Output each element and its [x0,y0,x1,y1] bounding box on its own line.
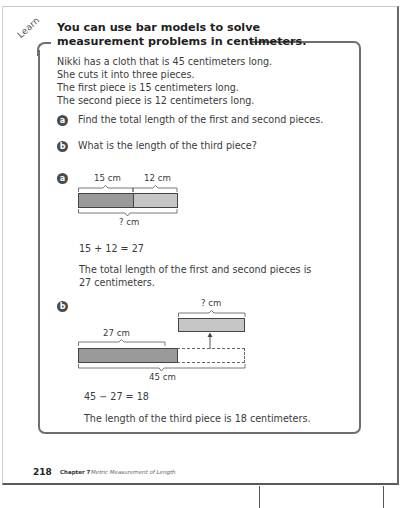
equation-a: 15 + 12 = 27 [79,243,144,256]
badge-a-icon: a [57,115,68,126]
chapter-label: Chapter 7 [60,469,90,475]
arrow-up-icon [206,332,214,349]
question-a: Find the total length of the first and s… [78,114,323,127]
second-piece-bar [133,193,178,208]
learn-box-curl [37,42,51,56]
bottom-brace-icon [78,364,246,372]
first-piece-label: 15 cm [94,173,121,183]
problem-line: Nikki has a cloth that is 45 centimeters… [57,56,272,69]
known-length-bar [78,348,178,363]
top-brace-icon [78,339,168,347]
badge-b-icon: b [57,141,68,152]
unknown-label: ? cm [201,298,221,308]
question-b: What is the length of the third piece? [78,140,257,153]
problem-line: The second piece is 12 centimeters long. [57,95,254,108]
bottom-brace-icon [78,209,178,217]
badge-a-icon: a [57,173,68,184]
second-piece-label: 12 cm [144,173,171,183]
crop-mark [383,486,384,508]
total-label: ? cm [119,217,139,227]
crop-mark [259,486,260,508]
known-label: 27 cm [103,328,130,338]
answer-a-line: The total length of the first and second… [79,264,311,277]
remaining-dashed-bar [177,348,245,363]
third-piece-bar [178,318,245,332]
heading-line-2: measurement problems in centimeters. [57,35,307,49]
badge-b-icon: b [57,301,68,312]
problem-line: The first piece is 15 centimeters long. [57,82,239,95]
first-piece-bar [78,193,134,208]
lesson-heading: You can use bar models to solve measurem… [57,21,307,49]
problem-line: She cuts it into three pieces. [57,69,195,82]
heading-line-1: You can use bar models to solve [57,21,307,35]
answer-b: The length of the third piece is 18 cent… [84,413,310,426]
page-number: 218 [33,467,52,477]
equation-b: 45 − 27 = 18 [84,391,149,404]
total-label: 45 cm [149,372,176,382]
chapter-title: Metric Measurement of Length [91,469,176,475]
top-brace-icon [78,185,178,193]
answer-a-line: 27 centimeters. [79,277,155,290]
top-brace-icon [178,310,246,318]
